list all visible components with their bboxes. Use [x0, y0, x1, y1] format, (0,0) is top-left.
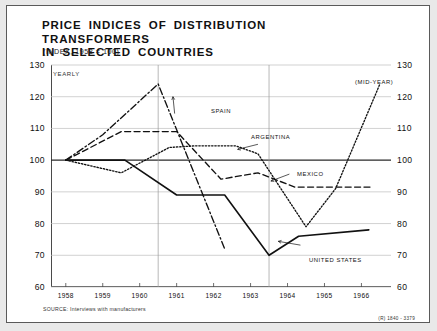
y-tick-label-left: 130	[23, 60, 45, 70]
y-tick-label-right: 90	[397, 187, 419, 197]
plot-area	[51, 65, 391, 287]
x-tick-label: 1963	[234, 292, 268, 299]
y-tick-label-right: 130	[397, 60, 419, 70]
annotation-spain: SPAIN	[211, 108, 231, 114]
annotation-argentina: ARGENTINA	[251, 134, 290, 140]
y-tick-label-right: 110	[397, 123, 419, 133]
y-tick-label-left: 110	[23, 123, 45, 133]
x-tick-label: 1962	[197, 292, 231, 299]
x-tick-label: 1961	[160, 292, 194, 299]
y-tick-label-right: 60	[397, 282, 419, 292]
y-tick-label-left: 70	[23, 250, 45, 260]
x-tick-label: 1959	[86, 292, 120, 299]
source-note: SOURCE: Interviews with manufacturers	[43, 306, 146, 312]
chart-card: PRICE INDICES OF DISTRIBUTION TRANSFORME…	[6, 5, 430, 323]
y-tick-label-left: 90	[23, 187, 45, 197]
x-tick-label: 1958	[49, 292, 83, 299]
y-tick-label-right: 70	[397, 250, 419, 260]
y-tick-label-right: 100	[397, 155, 419, 165]
title-line-1: PRICE INDICES OF DISTRIBUTION TRANSFORME…	[42, 19, 266, 45]
x-tick-label: 1965	[307, 292, 341, 299]
leader-line	[271, 174, 289, 181]
y-tick-label-left: 100	[23, 155, 45, 165]
x-tick-label: 1966	[344, 292, 378, 299]
y-tick-label-left: 80	[23, 219, 45, 229]
screenshot-root: PRICE INDICES OF DISTRIBUTION TRANSFORME…	[0, 0, 437, 331]
y-tick-label-right: 80	[397, 219, 419, 229]
y-tick-label-left: 60	[23, 282, 45, 292]
leader-lines	[51, 65, 391, 287]
y-tick-label-right: 120	[397, 92, 419, 102]
leader-line	[278, 241, 300, 245]
x-tick-label: 1960	[123, 292, 157, 299]
x-tick-label: 1964	[271, 292, 305, 299]
chart-subtitle: (INDEX, 1958 = 100)	[43, 47, 119, 56]
document-id: (R) 1840 - 3379	[378, 316, 415, 321]
annotation-mexico: MEXICO	[297, 171, 324, 177]
annotation-mid-year: (MID-YEAR)	[355, 79, 393, 85]
y-tick-label-left: 120	[23, 92, 45, 102]
leader-line	[238, 144, 258, 149]
annotation-united-states: UNITED STATES	[309, 257, 362, 263]
